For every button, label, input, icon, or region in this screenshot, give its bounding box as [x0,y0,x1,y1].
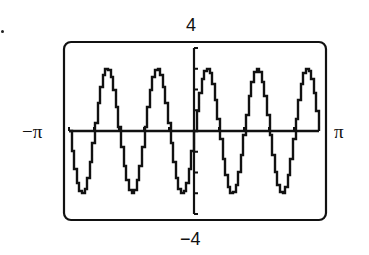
calculator-graph [0,0,369,255]
